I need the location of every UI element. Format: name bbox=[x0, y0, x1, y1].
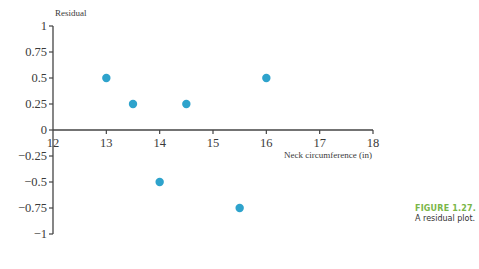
figure-caption: FIGURE 1.27. A residual plot. bbox=[415, 204, 476, 224]
x-axis: 12131415161718 bbox=[47, 130, 380, 150]
y-axis-label: Residual bbox=[55, 8, 87, 18]
y-tick-label: −0.75 bbox=[18, 201, 47, 215]
x-tick-label: 13 bbox=[100, 136, 113, 150]
x-tick-label: 14 bbox=[153, 136, 166, 150]
y-tick-label: −0.5 bbox=[24, 175, 47, 189]
y-tick-label: −0.25 bbox=[18, 149, 47, 163]
x-tick-label: 15 bbox=[207, 136, 220, 150]
y-tick-label: 0.5 bbox=[31, 71, 47, 85]
caption-text: A residual plot. bbox=[415, 214, 476, 224]
y-tick-label: 0.25 bbox=[25, 97, 47, 111]
residual-plot: 10.750.50.250−0.25−0.5−0.75−1 1213141516… bbox=[0, 0, 479, 269]
data-point bbox=[155, 178, 163, 186]
y-tick-label: 0 bbox=[41, 123, 47, 137]
x-axis-label: Neck circumference (in) bbox=[284, 150, 372, 160]
y-tick-label: 1 bbox=[41, 19, 47, 33]
data-point bbox=[262, 74, 270, 82]
y-axis: 10.750.50.250−0.25−0.5−0.75−1 bbox=[18, 19, 53, 241]
data-point bbox=[235, 204, 243, 212]
data-points bbox=[102, 74, 270, 212]
x-tick-label: 18 bbox=[367, 136, 380, 150]
x-tick-label: 12 bbox=[47, 136, 60, 150]
data-point bbox=[102, 74, 110, 82]
y-tick-label: −1 bbox=[34, 227, 47, 241]
x-tick-label: 16 bbox=[260, 136, 273, 150]
x-tick-label: 17 bbox=[313, 136, 326, 150]
data-point bbox=[129, 100, 137, 108]
data-point bbox=[182, 100, 190, 108]
y-tick-label: 0.75 bbox=[25, 45, 47, 59]
figure-label: FIGURE 1.27. bbox=[415, 204, 476, 214]
